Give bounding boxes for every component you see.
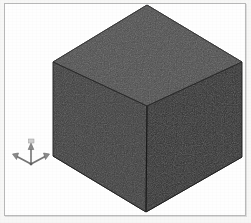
axis-origin-point (30, 163, 33, 166)
model-canvas[interactable] (0, 0, 251, 223)
x-axis-icon[interactable] (13, 153, 32, 164)
y-axis-icon[interactable] (31, 153, 50, 164)
axis-triad-gizmo[interactable] (0, 0, 251, 223)
viewport-root (0, 0, 251, 223)
z-axis-icon[interactable] (28, 139, 34, 164)
